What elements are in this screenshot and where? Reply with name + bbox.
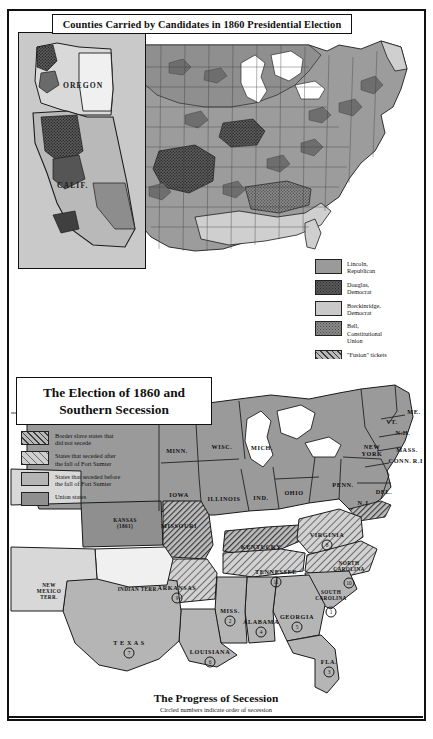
state-label-alabama: ALABAMA (243, 618, 279, 625)
legend-label-bell: Bell, Constitutional Union (347, 321, 382, 344)
map-frame: Counties Carried by Candidates in 1860 P… (7, 9, 426, 721)
top-map-legend: Lincoln, Republican Douglas, Democrat Br… (315, 259, 419, 359)
bottom-divider-rule (9, 716, 423, 718)
legend-label-seceded-before: States that seceded before the fall of F… (55, 472, 120, 487)
legend-item-douglas: Douglas, Democrat (315, 280, 419, 296)
secession-order-arkansas: 9 (172, 593, 183, 604)
legend-swatch-fusion (315, 350, 342, 359)
state-label-wisc: WISC. (211, 443, 232, 450)
legend-item-union-states: Union states (21, 492, 191, 506)
legend-swatch-seceded-after (21, 451, 49, 465)
west-coast-inset: OREGON CALIF. (18, 32, 146, 269)
state-label-fla: FLA. (321, 658, 337, 665)
state-label-indian-terr: INDIAN TERR. (118, 586, 159, 592)
top-map-title-banner: Counties Carried by Candidates in 1860 P… (52, 14, 352, 34)
legend-label-border-slave-states: Border slave states that did not secede (55, 431, 114, 446)
state-label-south-carolina: SOUTHCAROLINA (315, 589, 346, 601)
state-label-louisiana: LOUISIANA (190, 648, 230, 655)
legend-label-douglas: Douglas, Democrat (347, 280, 371, 296)
secession-order-georgia: 5 (292, 622, 303, 633)
secession-order-fla: 3 (324, 667, 335, 678)
secession-order-alabama: 4 (256, 627, 267, 638)
state-label-georgia: GEORGIA (280, 613, 314, 620)
state-label-del: DEL. (376, 488, 393, 495)
state-label-mass: MASS. (396, 446, 418, 453)
secession-order-virginia: 8 (322, 540, 333, 551)
inset-label-oregon: OREGON (63, 81, 103, 90)
state-label-north-carolina: NORTHCAROLINA (333, 560, 364, 572)
state-label-illinois: ILLINOIS (207, 495, 240, 502)
state-label-conn: CONN. (389, 457, 412, 464)
legend-swatch-bell (315, 321, 342, 336)
state-label-t-e-x-a-s: T E X A S (113, 639, 144, 646)
state-label-me: ME. (407, 408, 420, 415)
state-label-virginia: VIRGINIA (310, 531, 345, 538)
secession-order-miss: 2 (225, 616, 236, 627)
state-label-tennessee: TENNESSEE (255, 568, 297, 575)
legend-label-lincoln: Lincoln, Republican (347, 259, 375, 275)
bottom-map-legend: Border slave states that did not secede … (21, 431, 191, 511)
state-label-ind: IND. (253, 494, 268, 501)
secession-order-tennessee: 11 (271, 577, 282, 588)
bottom-map-title-box: The Election of 1860 and Southern Secess… (16, 377, 212, 425)
secession-order-louisiana: 6 (205, 657, 216, 668)
secession-order-north-carolina: 10 (344, 578, 355, 589)
bottom-map-title-line1: The Election of 1860 and (43, 384, 185, 401)
state-label-mich: MICH. (251, 444, 273, 451)
legend-label-fusion: "Fusion" tickets (347, 350, 387, 358)
state-label-ohio: OHIO (284, 489, 303, 496)
top-map-panel: Counties Carried by Candidates in 1860 P… (9, 11, 423, 359)
legend-label-breckinridge: Breckinridge, Democrat (347, 301, 381, 317)
state-label-n-h: N.H. (396, 429, 411, 436)
state-label-vt: VT. (386, 418, 397, 425)
secession-order-t-e-x-a-s: 7 (124, 648, 135, 659)
bottom-map-title-line2: Southern Secession (59, 401, 169, 418)
legend-item-fusion: "Fusion" tickets (315, 350, 419, 359)
legend-label-union-states: Union states (55, 492, 86, 500)
state-label-arkansas: ARKANSAS (158, 584, 197, 591)
state-label-missouri: MISSOURI (161, 522, 197, 529)
legend-swatch-breckinridge (315, 301, 342, 316)
bottom-map-caption: The Progress of Secession Circled number… (9, 691, 423, 714)
caption-subtitle: Circled numbers indicate order of secess… (9, 705, 423, 714)
inset-label-california: CALIF. (57, 181, 88, 190)
secession-order-south-carolina: 1 (326, 607, 337, 618)
legend-swatch-union-states (21, 492, 49, 506)
legend-swatch-seceded-before (21, 472, 49, 486)
legend-swatch-douglas (315, 280, 342, 295)
state-label-n-j: N.J. (357, 499, 370, 506)
bottom-map-panel: The Election of 1860 and Southern Secess… (9, 359, 423, 718)
top-map-title: Counties Carried by Candidates in 1860 P… (63, 19, 342, 30)
state-label-kansas-1861: KANSAS(1861) (113, 517, 136, 529)
legend-item-breckinridge: Breckinridge, Democrat (315, 301, 419, 317)
legend-item-seceded-before: States that seceded before the fall of F… (21, 472, 191, 487)
state-label-r-i: R.I. (413, 457, 423, 464)
legend-item-seceded-after: States that seceded after the fall of Fo… (21, 451, 191, 466)
state-label-new-mexico-terr: NEWMEXICOTERR. (37, 582, 61, 600)
state-label-new-york: NEWYORK (362, 443, 383, 457)
legend-swatch-border-slave-states (21, 431, 49, 445)
state-label-miss: MISS. (220, 607, 240, 614)
caption-title: The Progress of Secession (9, 691, 423, 705)
map-page: Counties Carried by Candidates in 1860 P… (0, 0, 433, 739)
legend-item-bell: Bell, Constitutional Union (315, 321, 419, 344)
legend-swatch-lincoln (315, 259, 342, 274)
legend-item-border-slave-states: Border slave states that did not secede (21, 431, 191, 446)
state-label-kentucky: KENTUCKY (241, 543, 282, 550)
state-label-penn: PENN. (332, 481, 353, 488)
legend-label-seceded-after: States that seceded after the fall of Fo… (55, 451, 116, 466)
legend-item-lincoln: Lincoln, Republican (315, 259, 419, 275)
